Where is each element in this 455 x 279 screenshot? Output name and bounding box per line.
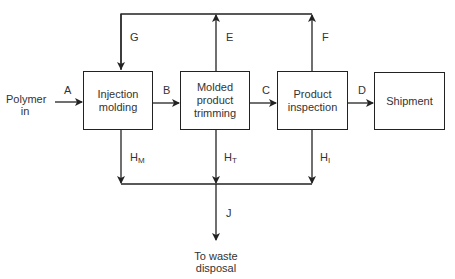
inspection-label: Product inspection — [284, 88, 342, 114]
shipment-label: Shipment — [386, 95, 432, 108]
stream-b-label: B — [163, 84, 170, 96]
trimming-box[interactable]: Molded product trimming — [180, 71, 250, 130]
shipment-box[interactable]: Shipment — [374, 72, 445, 130]
injection-molding-label: Injection molding — [93, 88, 143, 114]
polymer-in-label: Polymer in — [6, 93, 44, 117]
trimming-label: Molded product trimming — [188, 81, 242, 120]
stream-c-label: C — [262, 84, 270, 96]
stream-a-label: A — [64, 84, 71, 96]
stream-hm-label: HM — [130, 151, 145, 167]
stream-g-label: G — [130, 31, 139, 43]
injection-molding-box[interactable]: Injection molding — [83, 71, 153, 130]
stream-ht-label: HT — [224, 151, 237, 167]
stream-e-label: E — [226, 31, 233, 43]
waste-disposal-label: To waste disposal — [186, 250, 246, 274]
stream-f-label: F — [322, 31, 329, 43]
stream-d-label: D — [358, 84, 366, 96]
stream-hi-label: HI — [320, 151, 330, 167]
inspection-box[interactable]: Product inspection — [277, 71, 348, 130]
stream-j-label: J — [226, 207, 232, 219]
